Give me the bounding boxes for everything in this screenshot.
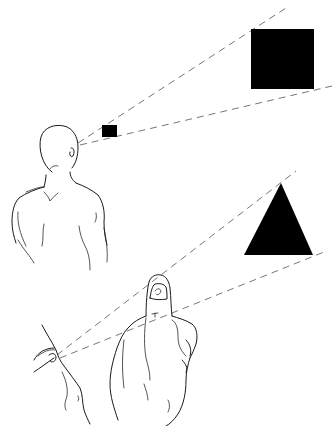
far-triangle	[244, 183, 313, 255]
observer-eye-profile	[34, 325, 90, 424]
near-small-square	[102, 125, 117, 137]
illustration-canvas	[0, 0, 334, 426]
observer-man-figure	[12, 125, 107, 270]
sight-line-lower-top	[80, 86, 332, 145]
bottom-scene	[34, 171, 324, 426]
sight-line-lower-bottom	[60, 252, 324, 358]
sight-line-upper-bottom	[57, 171, 296, 355]
far-large-square	[251, 29, 314, 89]
raised-thumb-hand	[110, 275, 197, 426]
